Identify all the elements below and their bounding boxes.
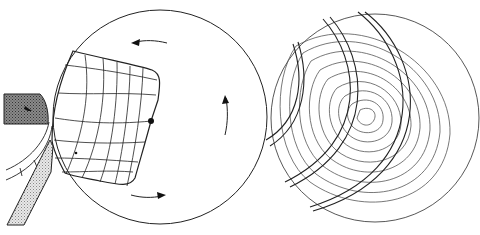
left-panel (4, 10, 267, 225)
rotation-arrows (131, 39, 229, 199)
diagram-figure (0, 0, 480, 235)
arrow-top-icon (136, 41, 167, 43)
arrow-right-icon (225, 98, 227, 135)
tool-bar (4, 94, 48, 124)
right-panel (266, 12, 479, 222)
blade (7, 140, 53, 225)
deformed-grid (52, 51, 160, 186)
small-dot-icon (75, 152, 78, 155)
left-disc (53, 10, 267, 224)
marker-dot-icon (148, 118, 154, 124)
arrow-bottom-icon (131, 195, 162, 197)
concentric-rings (280, 34, 450, 202)
